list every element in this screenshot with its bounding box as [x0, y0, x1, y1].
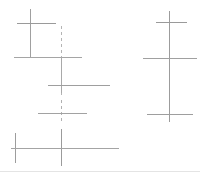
line-drawing-svg — [0, 0, 200, 174]
drawing-canvas — [0, 0, 200, 174]
